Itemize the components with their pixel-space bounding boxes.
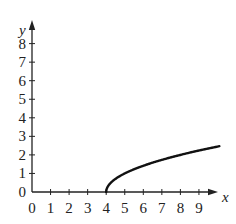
y-tick-label: 6: [19, 73, 27, 89]
x-tick-label: 4: [102, 200, 110, 216]
x-tick-label: 2: [65, 200, 73, 216]
y-tick-label: 5: [19, 91, 27, 107]
y-tick-label: 3: [19, 128, 27, 144]
y-axis-label: y: [17, 22, 26, 38]
y-tick-label: 1: [19, 165, 27, 181]
function-curve: [106, 146, 219, 192]
y-axis: [29, 20, 35, 192]
x-axis-arrow-icon: [208, 189, 218, 195]
x-axis-label: x: [221, 189, 229, 205]
x-tick-label: 1: [47, 200, 55, 216]
x-tick-label: 8: [177, 200, 185, 216]
y-axis-arrow-icon: [29, 20, 35, 30]
chart: 012345678 0123456789 x y: [0, 0, 236, 224]
x-tick-label: 3: [84, 200, 92, 216]
x-tick-label: 6: [140, 200, 148, 216]
y-tick-label: 2: [19, 147, 27, 163]
x-tick-label: 7: [158, 200, 166, 216]
y-tick-label: 7: [19, 54, 27, 70]
y-tick-label: 8: [19, 36, 27, 52]
x-ticks: 0123456789: [28, 189, 202, 216]
x-tick-label: 5: [121, 200, 129, 216]
x-tick-label: 9: [195, 200, 203, 216]
x-tick-label: 0: [28, 200, 36, 216]
y-tick-label: 0: [19, 184, 27, 200]
y-tick-label: 4: [19, 110, 27, 126]
